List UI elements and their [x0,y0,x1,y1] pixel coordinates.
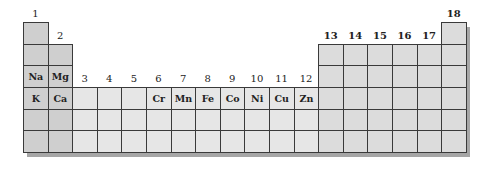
group-label-16: 16 [392,30,417,41]
element-cell [441,130,467,153]
group-label-10: 10 [244,73,269,84]
element-cell [269,130,295,153]
element-cell [121,87,147,110]
element-cell [48,44,74,67]
group-label-8: 8 [195,73,220,84]
element-cell [441,65,467,88]
element-cell [343,87,369,110]
group-label-9: 9 [220,73,245,84]
element-cell [417,65,443,88]
element-cell [23,130,49,153]
element-cell [220,130,246,153]
element-cell [146,109,172,132]
group-label-12: 12 [294,73,319,84]
element-cell [97,87,123,110]
element-cell [121,109,147,132]
group-label-5: 5 [121,73,146,84]
element-cell [441,22,467,45]
group-label-18: 18 [441,8,466,19]
element-cell [367,44,393,67]
element-cell [294,130,320,153]
element-cell [367,130,393,153]
group-label-13: 13 [318,30,343,41]
element-cell [23,22,49,45]
element-mn: Mn [171,87,197,110]
element-cell [343,65,369,88]
group-label-14: 14 [343,30,368,41]
element-cell [392,87,418,110]
element-na: Na [23,65,49,88]
element-cell [343,44,369,67]
element-cell [343,130,369,153]
element-cell [392,44,418,67]
group-label-4: 4 [97,73,122,84]
element-cell [367,109,393,132]
element-cell [417,109,443,132]
element-cell [23,109,49,132]
periodic-table-figure: 1NaK2MgCa3456Cr7Mn8Fe9Co10Ni11Cu12Zn1314… [0,0,487,173]
element-cell [318,130,344,153]
element-cell [72,109,98,132]
element-cell [121,130,147,153]
element-mg: Mg [48,65,74,88]
group-label-15: 15 [367,30,392,41]
element-cell [441,44,467,67]
element-ni: Ni [244,87,270,110]
element-cell [294,109,320,132]
element-cell [367,87,393,110]
element-cell [367,65,393,88]
group-label-7: 7 [171,73,196,84]
element-cell [195,130,221,153]
element-cell [72,87,98,110]
element-cell [171,130,197,153]
element-cell [343,109,369,132]
element-cell [318,65,344,88]
element-cell [392,109,418,132]
element-cell [318,109,344,132]
group-label-1: 1 [23,8,48,19]
element-cell [417,44,443,67]
element-cell [48,109,74,132]
element-cell [23,44,49,67]
element-cell [244,130,270,153]
element-co: Co [220,87,246,110]
element-cell [72,130,98,153]
element-cell [97,109,123,132]
group-label-2: 2 [48,30,73,41]
element-cell [269,109,295,132]
element-zn: Zn [294,87,320,110]
element-cell [392,65,418,88]
element-cell [48,130,74,153]
element-cell [146,130,172,153]
element-cell [171,109,197,132]
group-label-3: 3 [72,73,97,84]
group-label-17: 17 [417,30,442,41]
element-cell [392,130,418,153]
group-label-6: 6 [146,73,171,84]
element-cr: Cr [146,87,172,110]
element-cell [441,87,467,110]
element-ca: Ca [48,87,74,110]
element-cell [220,109,246,132]
element-cell [318,44,344,67]
element-fe: Fe [195,87,221,110]
group-label-11: 11 [269,73,294,84]
element-cell [441,109,467,132]
element-cell [97,130,123,153]
element-cell [417,130,443,153]
element-cell [318,87,344,110]
element-k: K [23,87,49,110]
element-cell [195,109,221,132]
element-cu: Cu [269,87,295,110]
element-cell [417,87,443,110]
element-cell [244,109,270,132]
